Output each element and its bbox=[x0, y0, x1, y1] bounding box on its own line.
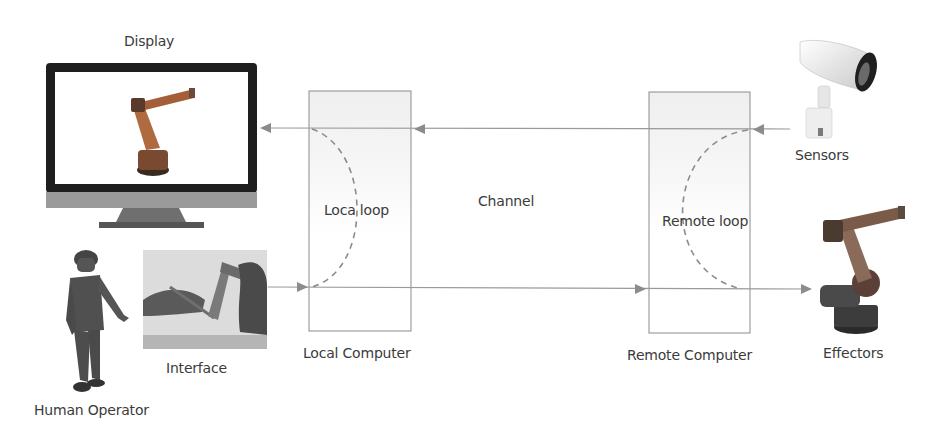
human-operator-label: Human Operator bbox=[34, 402, 149, 418]
arrow-local-to-remote bbox=[635, 284, 646, 294]
remote-loop-label: Remote loop bbox=[662, 213, 748, 229]
arrow-interface-to-local bbox=[297, 282, 308, 292]
interface-label: Interface bbox=[166, 360, 227, 376]
interface-photo-icon bbox=[143, 250, 267, 349]
effectors-label: Effectors bbox=[823, 345, 883, 361]
local-computer-label: Local Computer bbox=[303, 345, 411, 361]
display-label: Display bbox=[124, 33, 174, 49]
arrow-local-to-display bbox=[260, 123, 271, 133]
local-loop-label: Loca loop bbox=[324, 202, 389, 218]
security-camera-icon bbox=[800, 40, 881, 138]
remote-computer-label: Remote Computer bbox=[627, 347, 752, 363]
industrial-robot-arm-icon bbox=[820, 206, 905, 334]
human-operator-icon bbox=[66, 250, 129, 392]
diagram-canvas bbox=[0, 0, 947, 433]
channel-label: Channel bbox=[478, 193, 534, 209]
monitor-icon bbox=[46, 63, 257, 228]
arrow-sensors-to-remote bbox=[753, 124, 764, 135]
arrow-remote-to-local bbox=[414, 124, 425, 134]
sensors-label: Sensors bbox=[795, 147, 849, 163]
arrow-remote-to-effectors bbox=[801, 284, 812, 294]
